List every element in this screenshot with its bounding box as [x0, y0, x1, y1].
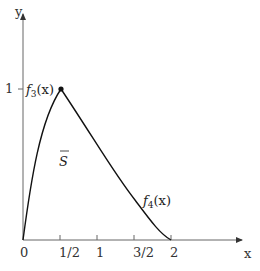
x-tick-label-1: 1	[96, 245, 104, 260]
curve-f4	[61, 89, 171, 240]
x-tick-label-2: 2	[170, 245, 178, 260]
peak-point	[58, 86, 63, 91]
curve-f3	[23, 89, 61, 240]
f3-label: f3(x)	[25, 82, 54, 99]
f4-label: f4(x)	[142, 193, 171, 210]
x-axis-label: x	[244, 246, 252, 261]
x-tick-label-3-2: 3/2	[133, 245, 154, 260]
y-axis-label: y	[14, 4, 23, 19]
region-label: S	[59, 154, 68, 169]
x-tick-label-half: 1/2	[59, 245, 80, 260]
x-tick-label-0: 0	[20, 245, 28, 260]
y-tick-label-1: 1	[5, 81, 13, 96]
function-region-diagram: y x 1 0 1/2 1 3/2 2 f3(x) f4(x) S	[0, 0, 260, 271]
